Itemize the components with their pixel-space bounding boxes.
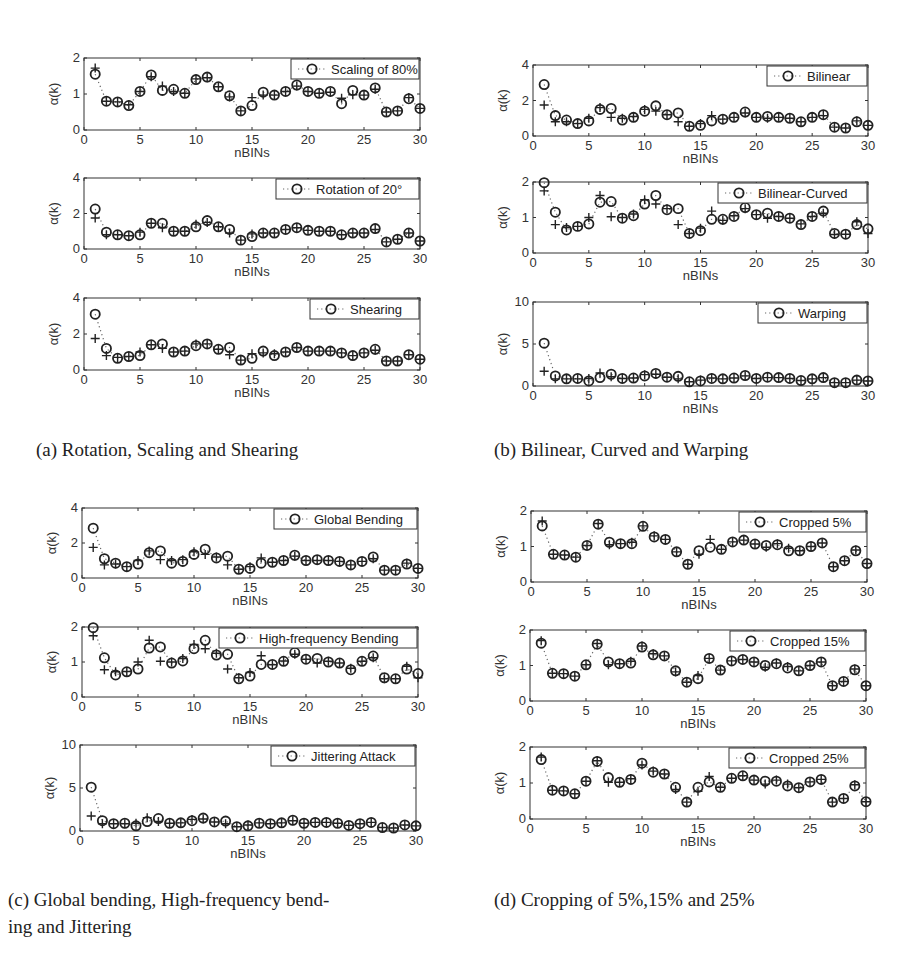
x-axis-label: nBINs [680,834,716,849]
legend-label: Cropped 25% [769,751,849,766]
x-tick-label: 25 [803,821,817,836]
x-tick-label: 5 [582,821,589,836]
y-tick-label: 1 [519,775,526,790]
y-tick-label: 0 [519,811,526,826]
legend: Cropped 25% [729,748,865,768]
caption-d: (d) Cropping of 5%,15% and 25% [494,888,755,912]
plot-svg: 051015202530012nBINsα(k)Cropped 25% [0,0,923,967]
x-tick-label: 20 [747,821,761,836]
panel-d: 051015202530012nBINsα(k)Cropped 5% 05101… [0,0,923,967]
x-tick-label: 30 [859,821,873,836]
y-axis-label: α(k) [492,772,507,795]
y-tick-label: 2 [519,739,526,754]
x-tick-label: 0 [526,821,533,836]
x-tick-label: 10 [635,821,649,836]
